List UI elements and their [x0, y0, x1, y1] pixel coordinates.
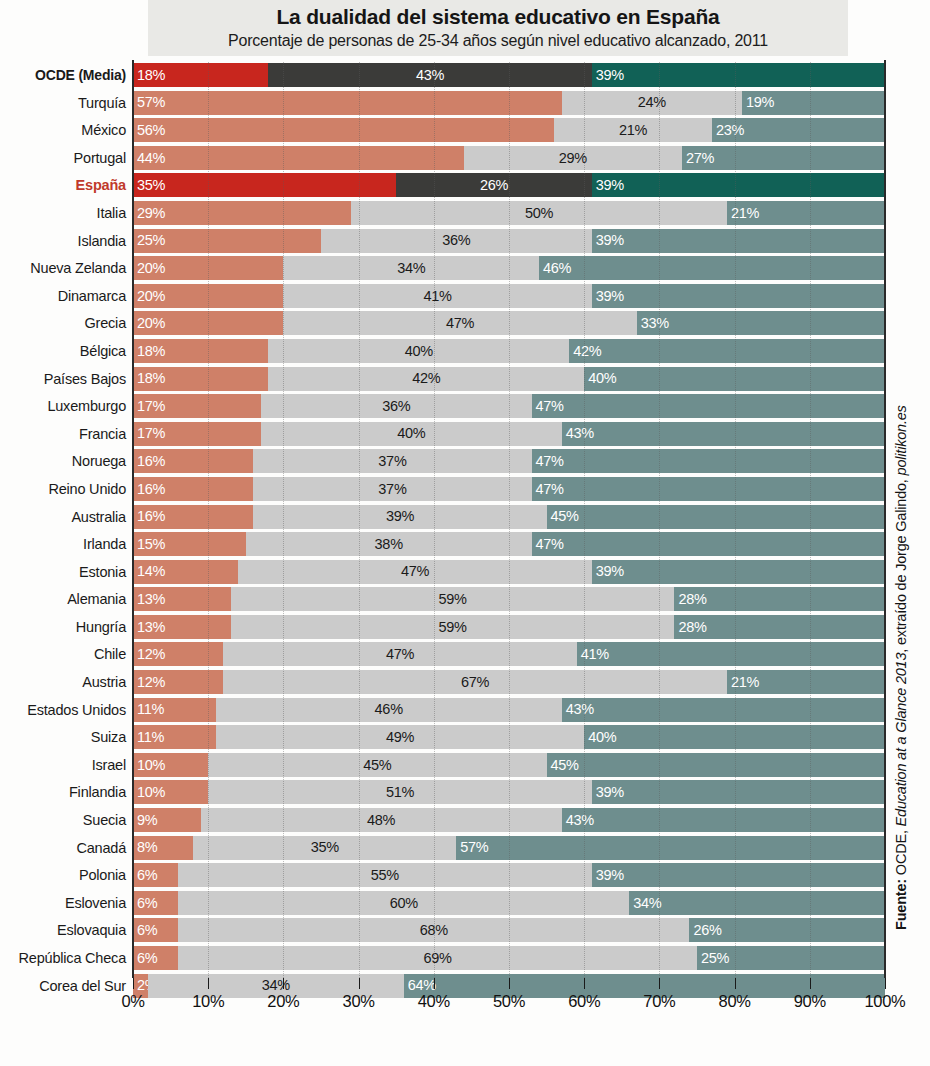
bar-segment-1: 12% — [133, 670, 223, 694]
row-label-nueva-zelanda: Nueva Zelanda — [0, 255, 126, 283]
row-label-estados-unidos: Estados Unidos — [0, 697, 126, 725]
bar-segment-1: 13% — [133, 615, 231, 639]
row-label-austria: Austria — [0, 669, 126, 697]
row-label-turqu-a: Turquía — [0, 90, 126, 118]
bar-segment-3: 28% — [674, 615, 885, 639]
bar-segment-2: 21% — [554, 118, 712, 142]
bar-value-label: 16% — [133, 482, 165, 497]
row-label-luxemburgo: Luxemburgo — [0, 393, 126, 421]
bar-value-label: 45% — [363, 758, 391, 773]
axis-tick — [359, 978, 360, 989]
bar-value-label: 57% — [133, 95, 165, 110]
bar-segment-1: 35% — [133, 173, 396, 197]
bar-segment-2: 37% — [253, 449, 531, 473]
bar-segment-2: 38% — [246, 532, 532, 556]
chart-row: Eslovaquia6%68%26% — [0, 917, 930, 945]
bar-value-label: 60% — [390, 896, 418, 911]
bar-segment-2: 36% — [321, 229, 592, 253]
bar-value-label: 10% — [133, 785, 165, 800]
bar-segment-1: 29% — [133, 201, 351, 225]
row-label-m-xico: México — [0, 117, 126, 145]
bar-value-label: 39% — [592, 68, 624, 83]
bar-value-label: 24% — [638, 95, 666, 110]
bar-value-label: 16% — [133, 509, 165, 524]
axis-tick — [584, 978, 585, 989]
bar-segment-3: 39% — [592, 63, 885, 87]
axis-line-left — [132, 60, 134, 978]
bar-value-label: 39% — [592, 233, 624, 248]
bar-segment-2: 29% — [464, 146, 682, 170]
bar-value-label: 44% — [133, 151, 165, 166]
chart-row: Chile12%47%41% — [0, 641, 930, 669]
chart-row: Israel10%45%45% — [0, 752, 930, 780]
bar-segment-2: 34% — [283, 256, 539, 280]
chart-row: OCDE (Media)18%43%39% — [0, 62, 930, 90]
bar-value-label: 47% — [446, 316, 474, 331]
bar-track: 13%59%28% — [133, 587, 885, 611]
axis-tick — [659, 978, 660, 989]
bar-segment-1: 18% — [133, 63, 268, 87]
bar-value-label: 43% — [562, 702, 594, 717]
row-label-chile: Chile — [0, 641, 126, 669]
bar-track: 12%67%21% — [133, 670, 885, 694]
bar-value-label: 40% — [584, 730, 616, 745]
bar-segment-1: 17% — [133, 394, 261, 418]
bar-segment-2: 42% — [268, 367, 584, 391]
bar-segment-1: 15% — [133, 532, 246, 556]
bar-track: 16%39%45% — [133, 505, 885, 529]
bar-value-label: 42% — [569, 344, 601, 359]
bar-segment-3: 40% — [584, 725, 885, 749]
bar-track: 20%47%33% — [133, 311, 885, 335]
bar-track: 25%36%39% — [133, 229, 885, 253]
bar-track: 6%60%34% — [133, 891, 885, 915]
bar-value-label: 11% — [133, 730, 164, 745]
chart-row: España35%26%39% — [0, 172, 930, 200]
row-label-polonia: Polonia — [0, 862, 126, 890]
bar-value-label: 39% — [592, 564, 624, 579]
bar-segment-3: 47% — [532, 394, 885, 418]
bar-value-label: 13% — [133, 620, 165, 635]
bar-value-label: 39% — [386, 509, 414, 524]
bar-value-label: 68% — [420, 923, 448, 938]
bar-segment-2: 50% — [351, 201, 727, 225]
bar-segment-3: 40% — [584, 367, 885, 391]
chart-row: Estados Unidos11%46%43% — [0, 697, 930, 725]
chart-row: Finlandia10%51%39% — [0, 779, 930, 807]
source-prefix: Fuente: — [893, 879, 909, 930]
bar-segment-2: 51% — [208, 780, 592, 804]
row-label-b-lgica: Bélgica — [0, 338, 126, 366]
bar-segment-1: 20% — [133, 311, 283, 335]
bar-segment-1: 6% — [133, 891, 178, 915]
bar-value-label: 45% — [547, 509, 579, 524]
bar-segment-3: 57% — [456, 836, 885, 860]
bar-segment-1: 13% — [133, 587, 231, 611]
bar-segment-2: 55% — [178, 863, 592, 887]
bar-value-label: 41% — [423, 289, 451, 304]
bar-segment-3: 25% — [697, 946, 885, 970]
bar-value-label: 12% — [133, 647, 165, 662]
bar-value-label: 50% — [525, 206, 553, 221]
chart-row: Grecia20%47%33% — [0, 310, 930, 338]
chart-row: Austria12%67%21% — [0, 669, 930, 697]
bar-value-label: 26% — [480, 178, 508, 193]
row-label-dinamarca: Dinamarca — [0, 283, 126, 311]
chart-row: Polonia6%55%39% — [0, 862, 930, 890]
row-label-grecia: Grecia — [0, 310, 126, 338]
chart-row: Reino Unido16%37%47% — [0, 476, 930, 504]
bar-value-label: 29% — [559, 151, 587, 166]
axis-tick-label: 70% — [643, 992, 675, 1011]
bar-track: 12%47%41% — [133, 642, 885, 666]
bar-value-label: 28% — [674, 592, 706, 607]
axis-tick — [434, 978, 435, 989]
axis-tick-label: 0% — [121, 992, 144, 1011]
row-label-francia: Francia — [0, 421, 126, 449]
bar-value-label: 42% — [412, 371, 440, 386]
bar-segment-3: 41% — [577, 642, 885, 666]
chart-row: Bélgica18%40%42% — [0, 338, 930, 366]
chart-row: Hungría13%59%28% — [0, 614, 930, 642]
bar-segment-2: 39% — [253, 505, 546, 529]
bar-segment-2: 24% — [562, 91, 742, 115]
source-org: OCDE, — [893, 830, 909, 875]
bar-segment-1: 11% — [133, 725, 216, 749]
bar-track: 57%24%19% — [133, 91, 885, 115]
